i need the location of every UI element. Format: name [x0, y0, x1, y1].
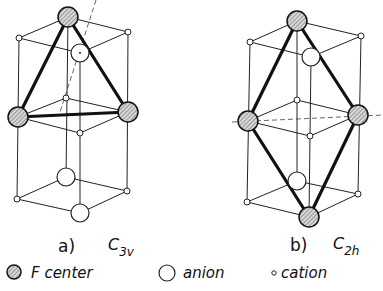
cation-icon	[294, 97, 300, 103]
cation-icon	[77, 130, 83, 136]
legend-cation-label: cation	[281, 264, 327, 282]
diagram-canvas: a) C3v b) C2h F center anion cation	[0, 0, 383, 291]
cation-icon	[244, 199, 250, 205]
panel-a-structure	[8, 0, 138, 222]
f-center-icon	[238, 111, 258, 131]
cation-icon	[63, 95, 69, 101]
cation-icon	[14, 196, 20, 202]
cation-icon	[125, 29, 131, 35]
cation-icon	[358, 33, 364, 39]
cation-icon	[355, 191, 361, 197]
f-center-icon	[58, 7, 78, 27]
f-center-icon	[8, 107, 28, 127]
cation-icon	[307, 133, 313, 139]
legend-anion-icon	[159, 265, 175, 281]
legend-f-center-icon	[7, 265, 21, 279]
cation-icon	[247, 39, 253, 45]
panel-a-label: a)	[58, 236, 75, 256]
f-center-icon	[348, 105, 368, 125]
f-center-icon	[299, 207, 319, 227]
anion-icon	[57, 168, 75, 186]
f-center-icon	[118, 102, 138, 122]
cation-icon	[124, 188, 130, 194]
anion-icon	[302, 48, 320, 66]
legend-anion-label: anion	[183, 264, 225, 282]
panel-b-structure	[232, 11, 383, 227]
anion-icon	[71, 204, 89, 222]
middle-face	[248, 100, 358, 136]
legend-cation-icon	[272, 271, 276, 275]
panel-a-symmetry: C3v	[108, 235, 135, 259]
cation-icon	[16, 35, 22, 41]
legend: F center anion cation	[7, 264, 327, 282]
anion-icon	[288, 172, 306, 190]
legend-f-center-label: F center	[31, 264, 93, 282]
panel-b-symmetry: C2h	[333, 234, 359, 258]
f-center-icon	[287, 11, 307, 31]
panel-b-label: b)	[290, 235, 307, 255]
